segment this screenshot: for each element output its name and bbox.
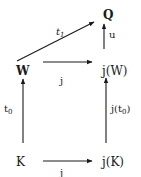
label-j-t0: j(t0): [110, 103, 131, 116]
node-W: W: [15, 64, 30, 78]
label-t0: t0: [4, 103, 13, 116]
label-u: u: [109, 29, 116, 40]
node-K: K: [16, 155, 26, 169]
label-t1: t1: [56, 26, 65, 39]
node-jK: j(K): [100, 155, 124, 169]
label-j-bottom: j: [59, 167, 63, 177]
node-Q: Q: [103, 8, 113, 22]
label-j-top: j: [59, 75, 63, 86]
commutative-diagram: Q W j(W) K j(K) t1 u j t0 j(t0) j: [0, 0, 141, 177]
node-jW: j(W): [100, 64, 127, 78]
